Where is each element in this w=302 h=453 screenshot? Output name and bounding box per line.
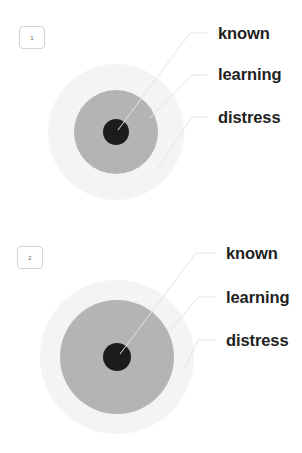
distress-zone-circle: [103, 343, 131, 371]
label-learning: learning: [226, 288, 289, 306]
label-known: known: [226, 244, 278, 262]
label-distress: distress: [226, 331, 289, 349]
diagram-2: 2 known learning distress: [0, 0, 302, 453]
concentric-circles-2: [0, 0, 302, 453]
